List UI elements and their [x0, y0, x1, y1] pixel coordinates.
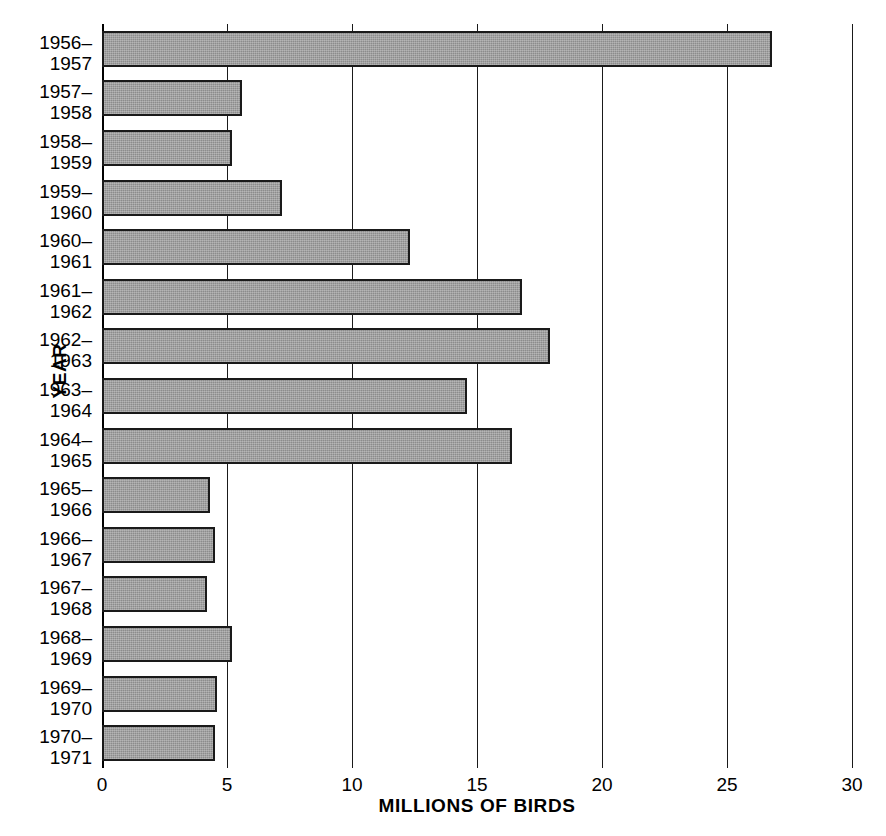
- category-label: 1969–1970: [39, 677, 92, 719]
- bar: [102, 676, 217, 712]
- category-label-line2: 1966: [39, 499, 92, 520]
- bar-row: [102, 378, 852, 414]
- bar-row: [102, 527, 852, 563]
- bar-row: [102, 328, 852, 364]
- gridline-30: [852, 24, 853, 768]
- category-label: 1963–1964: [39, 379, 92, 421]
- category-label-line1: 1966–: [39, 528, 92, 549]
- bar: [102, 31, 772, 67]
- bar-row: [102, 279, 852, 315]
- bar-row: [102, 80, 852, 116]
- x-tick-label: 20: [591, 774, 612, 796]
- plot-area: 051015202530: [102, 24, 852, 768]
- bar: [102, 477, 210, 513]
- bar-row: [102, 725, 852, 761]
- category-label-line2: 1967: [39, 549, 92, 570]
- category-label-line1: 1964–: [39, 429, 92, 450]
- bar-chart: YEAR 1956–19571957–19581958–19591959–196…: [0, 0, 886, 836]
- category-label-line1: 1969–: [39, 677, 92, 698]
- category-label-line2: 1958: [39, 102, 92, 123]
- category-label-line2: 1962: [39, 301, 92, 322]
- bar-row: [102, 428, 852, 464]
- bar: [102, 378, 467, 414]
- bar-row: [102, 576, 852, 612]
- category-label: 1958–1959: [39, 131, 92, 173]
- bar: [102, 725, 215, 761]
- category-label: 1957–1958: [39, 81, 92, 123]
- category-label-line2: 1964: [39, 400, 92, 421]
- category-label-line1: 1958–: [39, 131, 92, 152]
- x-tick-label: 25: [716, 774, 737, 796]
- category-label-line1: 1961–: [39, 280, 92, 301]
- category-label-line1: 1959–: [39, 181, 92, 202]
- category-label-line2: 1961: [39, 251, 92, 272]
- category-label: 1966–1967: [39, 528, 92, 570]
- x-tick-label: 15: [466, 774, 487, 796]
- category-label-line1: 1957–: [39, 81, 92, 102]
- bar-row: [102, 477, 852, 513]
- category-label-line1: 1968–: [39, 627, 92, 648]
- x-axis-title: MILLIONS OF BIRDS: [102, 795, 852, 817]
- bar-row: [102, 626, 852, 662]
- bar-row: [102, 180, 852, 216]
- category-label-line1: 1962–: [39, 329, 92, 350]
- category-label-line2: 1965: [39, 450, 92, 471]
- category-label-line2: 1959: [39, 152, 92, 173]
- bar: [102, 328, 550, 364]
- category-label: 1965–1966: [39, 478, 92, 520]
- category-label: 1962–1963: [39, 329, 92, 371]
- category-label-line2: 1969: [39, 648, 92, 669]
- category-label: 1968–1969: [39, 627, 92, 669]
- category-label-line2: 1963: [39, 350, 92, 371]
- bar: [102, 626, 232, 662]
- category-label-line2: 1957: [39, 53, 92, 74]
- bar: [102, 80, 242, 116]
- bar-row: [102, 676, 852, 712]
- category-label: 1956–1957: [39, 32, 92, 74]
- x-tick-label: 5: [222, 774, 233, 796]
- category-label-line1: 1956–: [39, 32, 92, 53]
- bar: [102, 428, 512, 464]
- category-label-line1: 1960–: [39, 230, 92, 251]
- category-label: 1960–1961: [39, 230, 92, 272]
- category-label-line1: 1963–: [39, 379, 92, 400]
- category-label-line1: 1970–: [39, 726, 92, 747]
- category-label: 1959–1960: [39, 181, 92, 223]
- bar: [102, 229, 410, 265]
- category-label-line2: 1960: [39, 202, 92, 223]
- bar: [102, 576, 207, 612]
- bar: [102, 180, 282, 216]
- bar-row: [102, 229, 852, 265]
- category-label: 1964–1965: [39, 429, 92, 471]
- bar: [102, 527, 215, 563]
- bar: [102, 279, 522, 315]
- category-axis-labels: 1956–19571957–19581958–19591959–19601960…: [0, 24, 96, 768]
- category-label-line2: 1968: [39, 598, 92, 619]
- bar: [102, 130, 232, 166]
- category-label-line1: 1965–: [39, 478, 92, 499]
- category-label-line1: 1967–: [39, 577, 92, 598]
- category-label: 1967–1968: [39, 577, 92, 619]
- category-label-line2: 1970: [39, 698, 92, 719]
- bar-row: [102, 31, 852, 67]
- bar-row: [102, 130, 852, 166]
- category-label: 1961–1962: [39, 280, 92, 322]
- category-label-line2: 1971: [39, 747, 92, 768]
- x-tick-label: 0: [97, 774, 108, 796]
- x-tick-label: 10: [341, 774, 362, 796]
- category-label: 1970–1971: [39, 726, 92, 768]
- x-tick-label: 30: [841, 774, 862, 796]
